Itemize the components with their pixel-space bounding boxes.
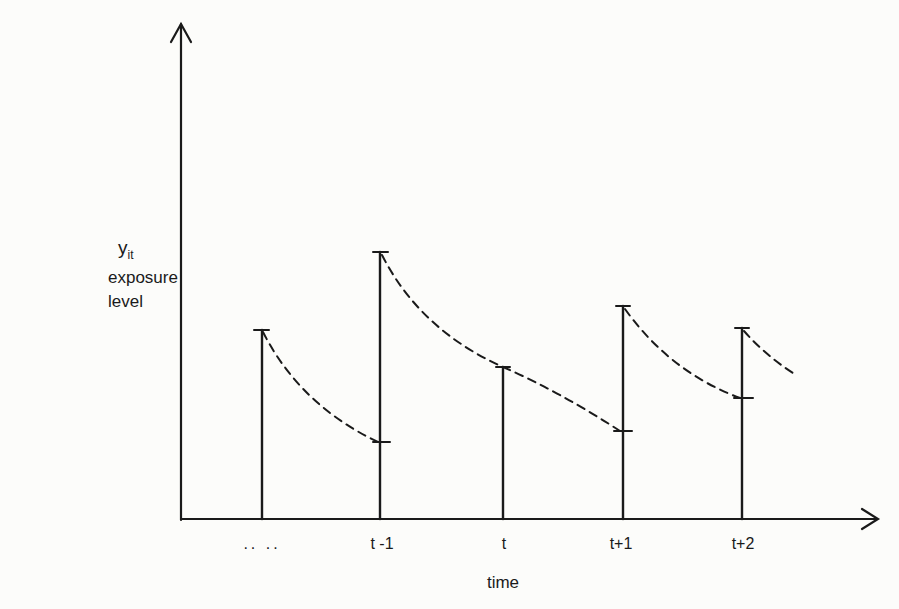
- x-tick-1: t -1: [370, 535, 393, 553]
- x-tick-2: t: [502, 535, 506, 553]
- x-tick-4: t+2: [732, 535, 755, 553]
- decay-curve-1: [382, 255, 620, 431]
- x-tick-3: t+1: [610, 535, 633, 553]
- impulse-bar-4: [734, 328, 753, 519]
- impulse-bar-2: [496, 367, 510, 519]
- y-axis-label-line1: exposure: [108, 268, 178, 288]
- impulse-bar-1: [373, 252, 390, 519]
- decay-curve-3: [625, 309, 740, 398]
- y-axis-symbol: yit: [118, 238, 134, 265]
- impulse-bar-0: [254, 330, 269, 519]
- y-symbol: y: [118, 237, 128, 258]
- x-axis-label: time: [487, 573, 519, 593]
- decay-curve-4: [744, 331, 793, 373]
- decay-curve-0: [263, 332, 378, 442]
- x-tick-0: .. ..: [243, 535, 280, 553]
- y-axis-label-line2: level: [108, 292, 143, 312]
- impulse-bar-3: [614, 306, 632, 519]
- y-subscript: it: [128, 248, 134, 262]
